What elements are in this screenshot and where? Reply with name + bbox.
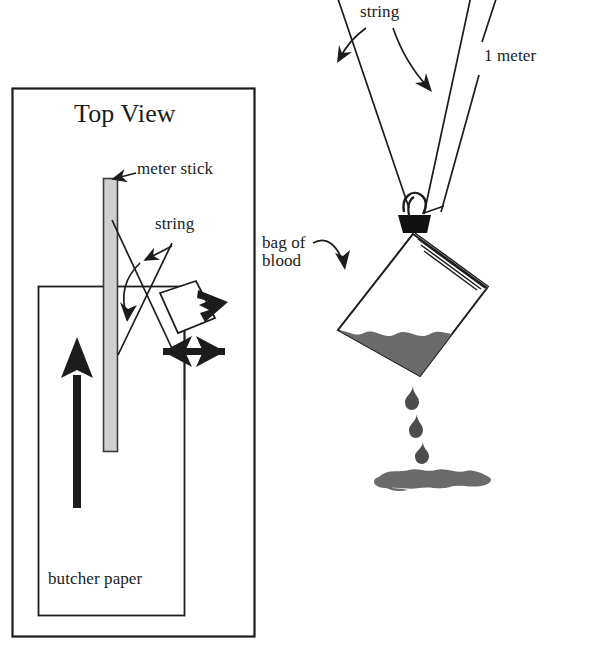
meter-stick-rod-outer [424,0,471,214]
page-title: Top View [74,100,176,128]
drip-3 [415,442,429,464]
upward-arrow [61,337,93,508]
horizontal-double-arrow [163,336,225,367]
blood-splatter-pool [374,469,491,489]
binder-clip [398,215,431,233]
drip-2 [409,414,423,438]
side-view-panel [313,0,500,491]
label-string-top-view: string [155,215,194,233]
label-one-meter: 1 meter [484,47,536,65]
label-string-side-view: string [360,3,399,21]
label-butcher-paper: butcher paper [48,570,142,588]
meter-stick-rod-inner-upper [482,0,497,42]
bag-label-leader-head [335,250,350,270]
binder-clip-arm [408,197,414,215]
meter-stick-leader [113,173,136,179]
top-view-panel [13,89,255,637]
string-line-a [112,220,175,355]
meter-stick-rod-inner-lower [441,75,479,212]
string-line-left [337,0,409,208]
experiment-diagram [0,0,614,649]
outer-frame-rectangle [13,89,255,637]
meter-stick-bar [104,179,118,452]
figure-canvas: Top View meter stick string butcher pape… [0,0,614,649]
blood-fill [320,330,500,395]
string-leader-right-curve [393,28,427,86]
string-leader-left-head [337,45,352,63]
label-meter-stick: meter stick [137,160,213,178]
drip-1 [405,386,419,410]
label-bag-of-blood: bag of blood [262,234,306,271]
